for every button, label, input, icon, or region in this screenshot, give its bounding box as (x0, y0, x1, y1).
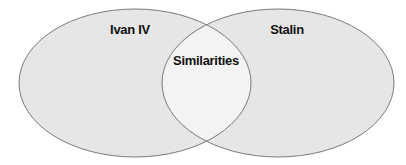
similarities-label: Similarities (173, 53, 239, 68)
stalin-label: Stalin (270, 22, 304, 37)
venn-diagram (0, 0, 406, 165)
ivan-iv-label: Ivan IV (110, 22, 150, 37)
